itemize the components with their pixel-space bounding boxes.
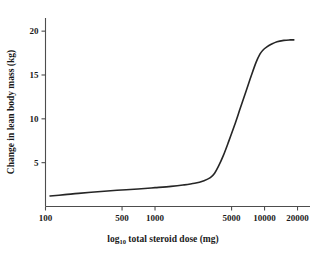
y-tick-label-10: 10 [30,114,40,124]
x-tick-label-20000: 20000 [286,213,309,223]
y-tick-label-5: 5 [34,158,39,168]
x-axis-title-rest: total steroid dose (mg) [126,234,219,245]
x-tick-label-100: 100 [39,213,53,223]
y-axis-ticks [42,31,46,163]
x-axis-tick-labels: 100500100050001000020000 [39,213,310,223]
y-axis-tick-labels: 5101520 [30,26,40,168]
axis-spines [46,18,311,207]
x-axis-ticks [46,207,298,211]
x-tick-label-5000: 5000 [223,213,242,223]
x-tick-label-10000: 10000 [253,213,276,223]
y-axis-title: Change in lean body mass (kg) [6,50,17,174]
y-tick-label-20: 20 [30,26,40,36]
x-tick-label-500: 500 [115,213,129,223]
data-series-line [50,40,294,196]
line-chart: 100500100050001000020000 5101520 Change … [0,0,326,255]
chart-figure: 100500100050001000020000 5101520 Change … [0,0,326,255]
x-tick-label-1000: 1000 [146,213,165,223]
x-axis-title-base: log [107,234,119,244]
x-axis-title: log10 total steroid dose (mg) [107,234,218,245]
y-tick-label-15: 15 [30,70,40,80]
